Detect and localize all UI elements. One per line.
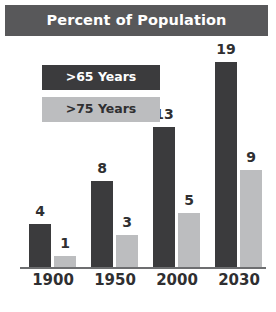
chart-legend: >65 Years >75 Years: [42, 65, 160, 129]
bar-chart: 4 1 8 3 13 5: [0, 38, 276, 312]
legend-item-over75[interactable]: >75 Years: [42, 97, 160, 122]
bar-value-label: 8: [97, 161, 107, 175]
bar-rect: [54, 256, 76, 267]
bar-2030-over75[interactable]: 9: [240, 40, 262, 267]
bar-rect: [116, 235, 138, 267]
bar-2000-over75[interactable]: 5: [178, 40, 200, 267]
legend-label: >65 Years: [66, 71, 137, 84]
bar-group-2030: 19 9: [213, 40, 265, 267]
legend-label: >75 Years: [66, 103, 137, 116]
bar-value-label: 1: [60, 236, 70, 250]
bar-rect: [178, 213, 200, 267]
x-tick-2000: 2000: [151, 273, 203, 288]
chart-title-banner: Percent of Population: [5, 5, 268, 36]
bar-value-label: 19: [216, 42, 235, 56]
page-title: Percent of Population: [47, 13, 227, 28]
bar-value-label: 3: [122, 215, 132, 229]
bar-2030-over65[interactable]: 19: [215, 40, 237, 267]
plot-area: 4 1 8 3 13 5: [20, 40, 266, 267]
bar-rect: [240, 170, 262, 267]
bar-rect: [215, 62, 237, 267]
bar-rect: [29, 224, 51, 267]
x-tick-1900: 1900: [27, 273, 79, 288]
bar-value-label: 4: [35, 204, 45, 218]
bar-value-label: 9: [246, 150, 256, 164]
bar-rect: [91, 181, 113, 268]
legend-item-over65[interactable]: >65 Years: [42, 65, 160, 90]
bar-rect: [153, 127, 175, 268]
x-axis-labels: 1900 1950 2000 2030: [20, 273, 266, 297]
x-axis-baseline: [20, 267, 266, 269]
x-tick-1950: 1950: [89, 273, 141, 288]
x-tick-2030: 2030: [213, 273, 265, 288]
bar-value-label: 5: [184, 193, 194, 207]
